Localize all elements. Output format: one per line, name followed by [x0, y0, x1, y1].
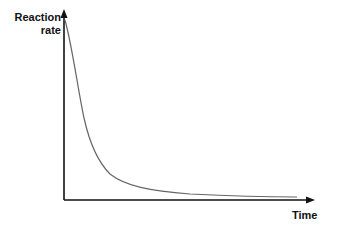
- y-axis-arrow-icon: [61, 9, 68, 18]
- y-axis: [61, 9, 68, 200]
- reaction-rate-chart: [0, 0, 340, 225]
- x-axis: [64, 197, 315, 204]
- decay-curve: [65, 20, 297, 197]
- x-axis-arrow-icon: [306, 197, 315, 204]
